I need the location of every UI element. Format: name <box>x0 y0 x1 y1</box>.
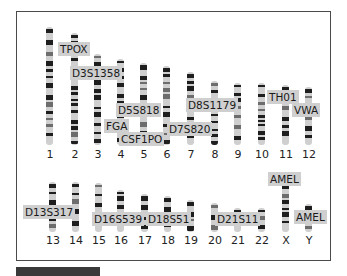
chromosome-band <box>71 35 78 38</box>
chromosome-band <box>72 221 79 226</box>
chromosome-number: 9 <box>228 148 248 161</box>
chromosome-band <box>282 208 289 210</box>
chromosome-band <box>94 89 101 93</box>
caption-bar <box>16 267 100 276</box>
chromosome-band <box>46 111 53 114</box>
marker-label: FGA <box>104 119 129 133</box>
chromosome-band <box>187 74 194 78</box>
chromosome-band <box>94 107 101 109</box>
chromosome-band <box>234 93 241 96</box>
chromosome-number: 14 <box>66 234 86 247</box>
chromosome-number: 13 <box>43 234 63 247</box>
chromosome-band <box>141 196 148 201</box>
chromosome-band <box>46 69 53 72</box>
chromosome-band <box>234 115 241 118</box>
chromosome-number: 4 <box>111 148 131 161</box>
chromosome-band <box>164 198 171 202</box>
chromosome-band <box>140 65 147 70</box>
chromosome-band <box>94 139 101 143</box>
chromosome-band <box>258 94 265 97</box>
chromosome-number: 11 <box>276 148 296 161</box>
chromosome-band <box>187 226 194 231</box>
chromosome-band <box>140 82 147 84</box>
chromosome-band <box>211 205 218 208</box>
chromosome-band <box>140 76 147 80</box>
chromosome-number: 12 <box>299 148 319 161</box>
chromosome-band <box>117 196 124 201</box>
chromosome-band <box>282 200 289 204</box>
chromosome-band <box>71 120 78 124</box>
chromosome-band <box>71 110 78 113</box>
chromosome-band <box>46 95 53 100</box>
chromosome-band <box>234 85 241 87</box>
chromosome-band <box>163 106 170 108</box>
marker-label: D8S1179 <box>186 98 238 112</box>
chromosome-band <box>258 115 265 118</box>
chromosome-number: 19 <box>181 234 201 247</box>
chromosome-band <box>258 109 265 111</box>
chromosome-band <box>187 86 194 91</box>
marker-label: TH01 <box>267 90 299 104</box>
chromosome-band <box>211 83 218 86</box>
chromosome-band <box>94 132 101 134</box>
chromosome-band <box>282 212 289 217</box>
chromosome-band <box>282 125 289 128</box>
chromosome-number: 17 <box>135 234 155 247</box>
chromosome-band <box>46 83 53 88</box>
chromosome-band <box>163 112 170 117</box>
chromosome-band <box>117 205 124 209</box>
chromosome-band <box>94 80 101 85</box>
chromosome-number: 20 <box>205 234 225 247</box>
chromosome-band <box>163 68 170 72</box>
chromosome-band <box>140 122 147 127</box>
marker-label: TPOX <box>58 42 90 56</box>
marker-label: D18S51 <box>146 212 191 226</box>
chromosome-band <box>163 74 170 77</box>
chromosome-band <box>234 125 241 129</box>
chromosome-band <box>95 185 102 187</box>
chromosome-band <box>282 194 289 198</box>
marker-label: D16S539 <box>92 212 144 226</box>
chromosome-band <box>49 192 56 194</box>
chromosome-number: 3 <box>88 148 108 161</box>
marker-label: D21S11 <box>215 212 260 226</box>
chromosome-number: 6 <box>157 148 177 161</box>
chromosome-1 <box>46 27 53 145</box>
marker-label: VWA <box>292 103 320 117</box>
chromosome-band <box>117 83 124 87</box>
chromosome-band <box>71 92 78 95</box>
chromosome-band <box>141 205 148 210</box>
chromosome-band <box>305 126 312 131</box>
chromosome-band <box>46 52 53 56</box>
chromosome-number: 15 <box>89 234 109 247</box>
chromosome-band <box>187 81 194 84</box>
chromosome-10 <box>258 83 265 145</box>
chromosome-band <box>46 124 53 127</box>
chromosome-band <box>117 192 124 194</box>
marker-label: D13S317 <box>23 205 75 219</box>
chromosome-band <box>187 202 194 206</box>
chromosome-band <box>282 221 289 223</box>
chromosome-band <box>258 85 265 87</box>
chromosome-band <box>305 96 312 98</box>
chromosome-band <box>282 131 289 136</box>
marker-label: AMEL <box>268 172 301 186</box>
chromosome-band <box>258 124 265 126</box>
chromosome-band <box>258 102 265 105</box>
chromosome-band <box>72 184 79 187</box>
chromosome-band <box>258 131 265 135</box>
marker-label: D7S820 <box>167 122 212 136</box>
chromosome-band <box>46 102 53 107</box>
chromosome-number: X <box>276 234 296 247</box>
chromosome-band <box>211 90 218 93</box>
chromosome-band <box>305 135 312 138</box>
chromosome-band <box>163 82 170 84</box>
chromosome-band <box>163 94 170 99</box>
chromosome-band <box>163 88 170 92</box>
chromosome-number: 2 <box>65 148 85 161</box>
chromosome-band <box>211 114 218 116</box>
chromosome-band <box>234 136 241 140</box>
chromosome-band <box>72 193 79 195</box>
chromosome-band <box>71 99 78 101</box>
chromosome-band <box>258 120 265 122</box>
